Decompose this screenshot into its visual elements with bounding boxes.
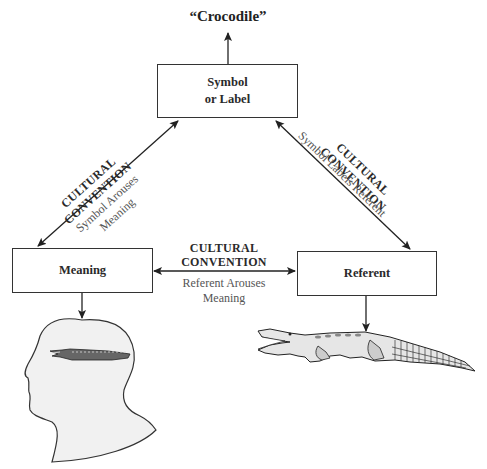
symbol-node-line2: or Label — [205, 91, 250, 108]
referent-node-label: Referent — [344, 265, 390, 282]
symbol-word: “Crocodile” — [178, 8, 278, 25]
referent-node: Referent — [297, 251, 437, 296]
meaning-node-label: Meaning — [59, 262, 106, 279]
symbol-node-line1: Symbol — [207, 74, 247, 91]
edge-title-2: CONVENTION — [164, 255, 284, 269]
edge-sub-2: Meaning — [164, 291, 284, 306]
symbol-node: Symbol or Label — [157, 64, 298, 118]
edge-label-meaning-referent: CULTURAL CONVENTION Referent Arouses Mea… — [164, 241, 284, 306]
head-illustration — [25, 319, 156, 462]
crocodile-illustration — [258, 329, 475, 371]
edge-sub-1: Referent Arouses — [164, 276, 284, 291]
edge-title-1: CULTURAL — [164, 241, 284, 255]
